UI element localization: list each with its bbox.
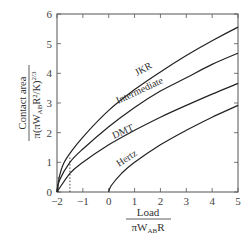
y-tick-label: 5 bbox=[47, 38, 53, 50]
y-tick-label: 3 bbox=[47, 97, 53, 109]
curve-dmt bbox=[57, 83, 238, 192]
x-tick-label: 0 bbox=[106, 195, 112, 207]
x-tick-label: 5 bbox=[235, 195, 241, 207]
label-dmt: DMT bbox=[110, 122, 135, 141]
label-intermediate: Intermediate bbox=[114, 74, 165, 106]
y-tick-label: 2 bbox=[47, 127, 53, 139]
x-tick-label: −1 bbox=[77, 195, 89, 207]
y-tick-label: 4 bbox=[47, 67, 53, 79]
y-label-denominator: π(πWABR²/K)2/3 bbox=[30, 71, 44, 138]
y-tick-label: 0 bbox=[47, 186, 53, 198]
y-label-numerator: Contact area bbox=[17, 76, 28, 129]
x-label-numerator: Load bbox=[137, 206, 160, 218]
x-tick-label: −2 bbox=[51, 195, 63, 207]
plot-frame bbox=[57, 14, 238, 192]
curve-hertz bbox=[109, 105, 238, 192]
curve-intermediate bbox=[57, 53, 238, 192]
x-tick-label: 4 bbox=[209, 195, 215, 207]
y-tick-label: 6 bbox=[47, 8, 53, 20]
contact-area-chart: −2−10123450123456 JKR Intermediate DMT H… bbox=[0, 0, 251, 238]
y-tick-label: 1 bbox=[47, 156, 53, 168]
label-hertz: Hertz bbox=[114, 147, 139, 169]
x-tick-label: 3 bbox=[184, 195, 190, 207]
curve-jkr bbox=[57, 27, 238, 192]
y-axis-label: Contact area π(πWABR²/K)2/3 bbox=[17, 65, 44, 141]
x-axis-label: Load πWABR bbox=[126, 206, 171, 235]
axis-ticks: −2−10123450123456 bbox=[47, 8, 242, 207]
curves bbox=[57, 27, 238, 192]
x-label-denominator: πWABR bbox=[131, 221, 165, 235]
label-jkr: JKR bbox=[133, 60, 154, 78]
plot-border bbox=[57, 14, 238, 192]
